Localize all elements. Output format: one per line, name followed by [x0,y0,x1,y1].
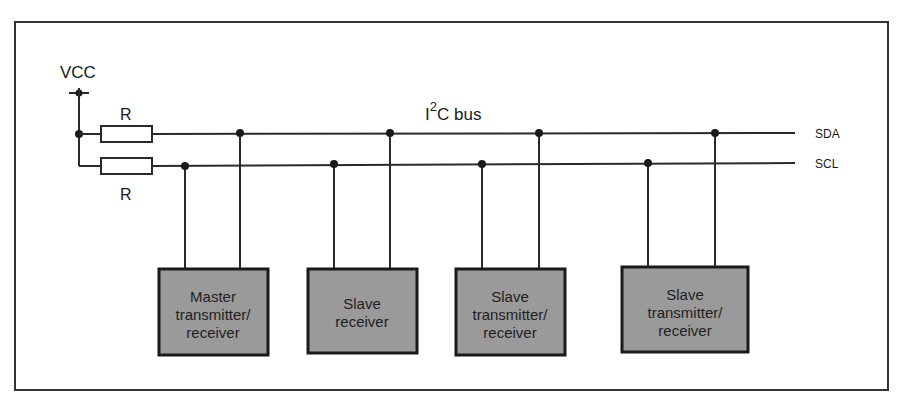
device-master-transmitter-receiver: Master transmitter/ receiver [159,129,268,355]
scl-label: SCL [815,157,839,171]
resistor-scl [101,158,152,174]
resistor-top-label: R [120,106,132,123]
figure-frame [15,22,888,390]
sda-line [152,133,795,134]
i2c-bus-diagram: VCC R R I2C bus SDA SCL Master transmitt… [0,0,902,406]
bus-title: I2C bus [425,99,481,124]
svg-text:receiver: receiver [658,322,711,339]
resistor-bottom-label: R [120,186,132,203]
scl-line [152,163,795,166]
svg-text:transmitter/: transmitter/ [175,306,251,323]
resistor-sda [101,126,152,142]
svg-text:receiver: receiver [186,324,239,341]
vcc-label: VCC [60,63,96,82]
svg-text:transmitter/: transmitter/ [472,306,548,323]
sda-label: SDA [815,127,840,141]
svg-text:Slave: Slave [491,288,529,305]
svg-text:receiver: receiver [483,324,536,341]
svg-text:Slave: Slave [666,286,704,303]
device-slave-receiver: Slave receiver [308,129,417,353]
svg-text:receiver: receiver [335,313,388,330]
svg-text:Slave: Slave [343,295,381,312]
svg-text:Master: Master [190,288,236,305]
svg-text:transmitter/: transmitter/ [647,304,723,321]
device-slave-transmitter-receiver-1: Slave transmitter/ receiver [456,129,565,355]
